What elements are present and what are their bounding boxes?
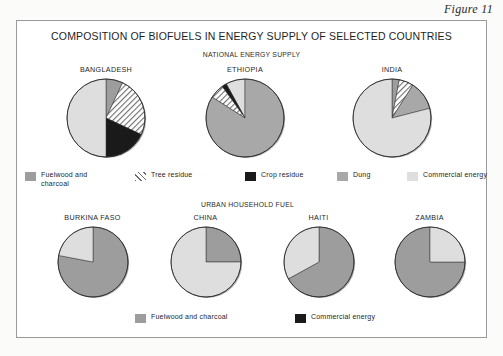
pie-block-india: INDIA — [327, 65, 457, 165]
pie-caption-burkina-faso: BURKINA FASO — [64, 213, 120, 222]
pie-caption-china: CHINA — [194, 213, 218, 222]
section-title-urban: URBAN HOUSEHOLD FUEL — [201, 201, 294, 208]
legend-label: Commercial energy — [423, 171, 487, 180]
pie-caption-india: INDIA — [382, 65, 403, 74]
pie-slice — [67, 79, 106, 157]
pie-chart-haiti — [282, 225, 356, 299]
legend-national: Fuelwood and charcoalTree residueCrop re… — [17, 171, 488, 191]
legend-urban: Fuelwood and charcoalCommercial energy — [17, 313, 488, 329]
legend-item: Fuelwood and charcoal — [25, 171, 87, 188]
legend-swatch-tree — [135, 172, 146, 181]
pie-chart-india — [351, 77, 433, 159]
pie-caption-haiti: HAITI — [309, 213, 329, 222]
pie-chart-zambia — [393, 225, 467, 299]
pie-caption-zambia: ZAMBIA — [415, 213, 444, 222]
pie-chart-china — [169, 225, 243, 299]
pie-block-zambia: ZAMBIA — [372, 213, 487, 313]
legend-swatch-crop — [295, 314, 306, 323]
legend-item: Crop residue — [245, 171, 303, 181]
legend-label: Dung — [353, 171, 371, 180]
legend-label: Fuelwood and charcoal — [151, 313, 228, 322]
pie-chart-burkina-faso — [56, 225, 130, 299]
figure-number: Figure 11 — [444, 2, 493, 17]
legend-label: Tree residue — [151, 171, 192, 180]
legend-item: Commercial energy — [407, 171, 487, 181]
figure-root: Figure 11 COMPOSITION OF BIOFUELS IN ENE… — [0, 0, 503, 356]
legend-swatch-fuelwood — [135, 314, 146, 323]
legend-swatch-dung — [337, 172, 348, 181]
legend-item: Dung — [337, 171, 371, 181]
legend-item: Fuelwood and charcoal — [135, 313, 228, 323]
pie-block-china: CHINA — [148, 213, 263, 313]
pie-slice — [206, 227, 241, 262]
legend-item: Tree residue — [135, 171, 192, 181]
pie-block-burkina-faso: BURKINA FASO — [35, 213, 150, 313]
section-title-national: NATIONAL ENERGY SUPPLY — [17, 51, 486, 58]
legend-label: Commercial energy — [311, 313, 375, 322]
pie-slice — [430, 227, 465, 262]
pie-chart-ethiopia — [204, 77, 286, 159]
legend-swatch-commercial — [407, 172, 418, 181]
pie-caption-bangladesh: BANGLADESH — [80, 65, 132, 74]
pie-chart-bangladesh — [65, 77, 147, 159]
legend-label: Crop residue — [261, 171, 303, 180]
legend-swatch-fuelwood — [25, 172, 36, 181]
legend-item: Commercial energy — [295, 313, 375, 323]
legend-label: Fuelwood and charcoal — [41, 171, 87, 188]
pie-block-ethiopia: ETHIOPIA — [180, 65, 310, 165]
pie-block-bangladesh: BANGLADESH — [41, 65, 171, 165]
legend-swatch-crop — [245, 172, 256, 181]
page-title: COMPOSITION OF BIOFUELS IN ENERGY SUPPLY… — [17, 30, 486, 42]
figure-frame: COMPOSITION OF BIOFUELS IN ENERGY SUPPLY… — [16, 20, 487, 338]
pie-caption-ethiopia: ETHIOPIA — [227, 65, 263, 74]
pie-block-haiti: HAITI — [261, 213, 376, 313]
